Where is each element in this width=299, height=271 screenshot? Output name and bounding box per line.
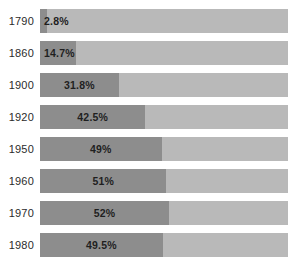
chart-row: 197052% bbox=[0, 201, 299, 225]
chart-row: 195049% bbox=[0, 137, 299, 161]
bar-track-wrap: 14.7% bbox=[40, 41, 288, 65]
chart-row: 198049.5% bbox=[0, 233, 299, 257]
stacked-percentage-bar-chart: 17902.8%186014.7%190031.8%192042.5%19504… bbox=[0, 0, 299, 271]
bar-value-label: 51% bbox=[40, 169, 166, 193]
chart-rows: 17902.8%186014.7%190031.8%192042.5%19504… bbox=[0, 9, 299, 265]
chart-row: 17902.8% bbox=[0, 9, 299, 33]
row-year-label: 1900 bbox=[0, 73, 34, 97]
bar-track-wrap: 49.5% bbox=[40, 233, 288, 257]
row-year-label: 1950 bbox=[0, 137, 34, 161]
bar-track-wrap: 51% bbox=[40, 169, 288, 193]
bar-track-remainder bbox=[40, 41, 288, 65]
chart-row: 192042.5% bbox=[0, 105, 299, 129]
bar-value-label: 49.5% bbox=[40, 233, 163, 257]
row-year-label: 1920 bbox=[0, 105, 34, 129]
chart-row: 190031.8% bbox=[0, 73, 299, 97]
bar-track-wrap: 2.8% bbox=[40, 9, 288, 33]
bar-value-label: 42.5% bbox=[40, 105, 145, 129]
row-year-label: 1970 bbox=[0, 201, 34, 225]
bar-value-label: 49% bbox=[40, 137, 162, 161]
bar-value-label: 31.8% bbox=[40, 73, 119, 97]
row-year-label: 1790 bbox=[0, 9, 34, 33]
bar-value-label: 2.8% bbox=[44, 9, 69, 33]
bar-track-remainder bbox=[40, 9, 288, 33]
bar-track-wrap: 49% bbox=[40, 137, 288, 161]
bar-track-wrap: 31.8% bbox=[40, 73, 288, 97]
bar-value-label: 14.7% bbox=[44, 41, 75, 65]
bar-track-wrap: 52% bbox=[40, 201, 288, 225]
bar-value-label: 52% bbox=[40, 201, 169, 225]
row-year-label: 1860 bbox=[0, 41, 34, 65]
chart-row: 196051% bbox=[0, 169, 299, 193]
chart-row: 186014.7% bbox=[0, 41, 299, 65]
row-year-label: 1980 bbox=[0, 233, 34, 257]
row-year-label: 1960 bbox=[0, 169, 34, 193]
bar-track-wrap: 42.5% bbox=[40, 105, 288, 129]
